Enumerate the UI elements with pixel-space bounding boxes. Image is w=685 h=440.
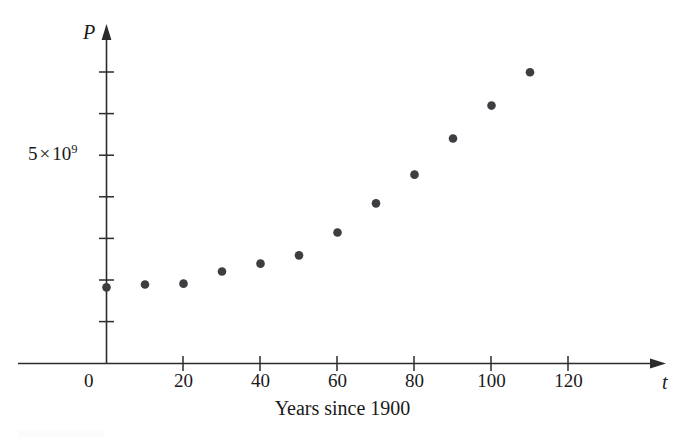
x-axis-tick-label-60: 60 [328, 371, 347, 390]
data-points-group [102, 68, 534, 292]
y-tick-mantissa: 5 [28, 143, 38, 164]
data-point [526, 68, 535, 77]
x-axis-arrow-icon [650, 359, 666, 369]
data-point [218, 267, 227, 276]
y-axis-tick-label-5e9: 5×109 [28, 144, 77, 163]
y-axis-arrow-icon [102, 24, 112, 40]
y-tick-base: 10 [52, 143, 71, 164]
data-point [295, 251, 304, 260]
data-point [449, 134, 458, 143]
x-axis-tick-label-100: 100 [477, 371, 506, 390]
data-point [102, 283, 111, 292]
data-point [141, 280, 150, 289]
data-point [179, 279, 188, 288]
x-axis-tick-label-120: 120 [554, 371, 583, 390]
cropped-caption-artifact [18, 430, 104, 437]
data-point [372, 199, 381, 208]
x-axis-variable-label: t [662, 372, 668, 392]
data-point [333, 228, 342, 237]
x-axis-tick-label-20: 20 [174, 371, 193, 390]
multiplication-sign: × [38, 143, 53, 164]
data-point [487, 101, 496, 110]
y-axis-variable-label: P [83, 22, 95, 42]
origin-label: 0 [84, 371, 94, 390]
x-axis-tick-label-40: 40 [251, 371, 270, 390]
x-axis-tick-label-80: 80 [405, 371, 424, 390]
data-point [410, 170, 419, 179]
y-tick-exponent: 9 [71, 142, 77, 156]
population-scatter-figure: P 5×109 0 20406080100120 t Years since 1… [0, 0, 685, 440]
x-axis-caption: Years since 1900 [0, 398, 685, 418]
data-point [256, 259, 265, 268]
